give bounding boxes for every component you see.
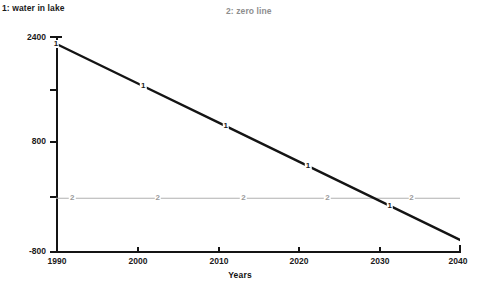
legend-item-zero-line: 2: zero line <box>226 6 272 16</box>
point-marker-zero-line-5: 2 <box>69 194 75 202</box>
point-marker-zero-line-7: 2 <box>240 194 246 202</box>
point-marker-water-in-lake-0: 1 <box>53 40 59 48</box>
x-tick-label-1990: 1990 <box>48 256 67 266</box>
legend-item-water-in-lake: 1: water in lake <box>2 3 65 13</box>
x-tick-label-2040: 2040 <box>449 256 468 266</box>
point-marker-water-in-lake-2: 1 <box>222 122 228 130</box>
point-marker-zero-line-6: 2 <box>155 194 161 202</box>
y-tick-label-2400: 2400 <box>27 32 46 42</box>
point-marker-zero-line-8: 2 <box>324 194 330 202</box>
x-tick-label-2010: 2010 <box>210 256 229 266</box>
water-in-lake-series <box>56 44 460 240</box>
point-marker-water-in-lake-4: 1 <box>386 202 392 210</box>
x-axis-title: Years <box>0 270 480 280</box>
x-tick-label-2030: 2030 <box>371 256 390 266</box>
plot-area: 1111122222 <box>56 37 460 252</box>
y-tick-label-800: 800 <box>32 136 46 146</box>
x-tick-label-2020: 2020 <box>290 256 309 266</box>
chart-container: 1: water in lake 2: zero line 2400 800 -… <box>0 0 480 287</box>
point-marker-zero-line-9: 2 <box>408 194 414 202</box>
x-tick-label-2000: 2000 <box>129 256 148 266</box>
point-marker-water-in-lake-3: 1 <box>305 162 311 170</box>
series-lines <box>56 37 460 252</box>
point-marker-water-in-lake-1: 1 <box>140 82 146 90</box>
y-tick-label-minus-800: -800 <box>29 246 46 256</box>
